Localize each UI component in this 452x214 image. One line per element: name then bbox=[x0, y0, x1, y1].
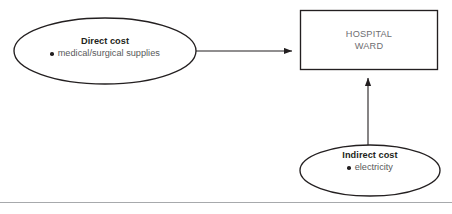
hospital-ward-box bbox=[301, 11, 438, 70]
diagram-canvas: Direct cost medical/surgical supplies HO… bbox=[0, 0, 452, 214]
diagram-graphics bbox=[0, 0, 452, 214]
indirect-cost-ellipse bbox=[300, 145, 440, 196]
direct-cost-ellipse bbox=[14, 18, 196, 84]
